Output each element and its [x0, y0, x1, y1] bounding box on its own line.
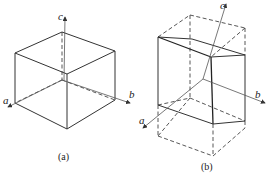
axis-c-label-b: c [220, 0, 225, 11]
axis-a-label-b: a [139, 114, 145, 126]
figure-a-axes [8, 17, 130, 107]
axis-c-label-a: c [58, 10, 63, 22]
caption-b: (b) [201, 161, 213, 173]
axis-a-arrow [143, 79, 203, 128]
figure-a-cube [15, 32, 115, 129]
axis-a-arrow [8, 80, 62, 107]
axis-a-label-a: a [3, 94, 9, 106]
figure-b-dashed-cell [158, 15, 245, 156]
axis-c-arrow [64, 17, 65, 80]
axis-b-arrow [62, 80, 130, 103]
axis-b-label-a: b [129, 88, 135, 100]
axis-c-arrow [203, 4, 226, 79]
caption-a: (a) [58, 151, 69, 163]
figure-b-axes [143, 4, 265, 128]
diagram-canvas: c a b (a) c a b (b) [0, 0, 269, 173]
axis-b-label-b: b [255, 88, 261, 100]
